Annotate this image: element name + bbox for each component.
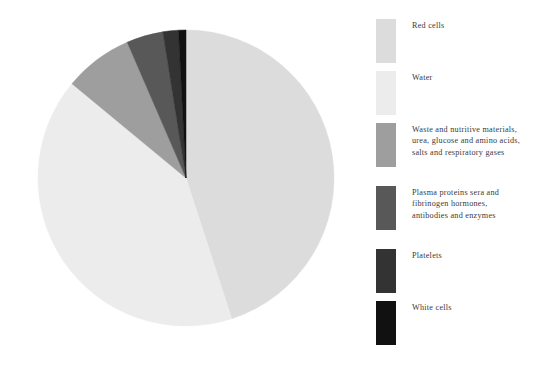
pie-chart-svg <box>0 0 376 368</box>
legend-swatch-platelets <box>376 249 396 293</box>
legend-item-white-cells[interactable]: White cells <box>376 301 539 345</box>
legend-swatch-water <box>376 71 396 115</box>
legend-swatch-plasma-proteins <box>376 186 396 230</box>
legend-label-white-cells: White cells <box>412 301 452 313</box>
chart-legend: Red cells Water Waste and nutritive mate… <box>376 0 539 368</box>
legend-item-plasma-proteins[interactable]: Plasma proteins sera and fibrinogen horm… <box>376 186 539 230</box>
legend-swatch-white-cells <box>376 301 396 345</box>
legend-swatch-red-cells <box>376 19 396 63</box>
legend-label-waste-and-nutritive-materials: Waste and nutritive materials, urea, glu… <box>412 123 520 158</box>
legend-item-waste-and-nutritive-materials[interactable]: Waste and nutritive materials, urea, glu… <box>376 123 539 167</box>
legend-label-platelets: Platelets <box>412 249 442 261</box>
legend-label-plasma-proteins: Plasma proteins sera and fibrinogen horm… <box>412 186 499 221</box>
pie-chart-page: Red cells Water Waste and nutritive mate… <box>0 0 539 368</box>
legend-swatch-waste-and-nutritive-materials <box>376 123 396 167</box>
legend-item-platelets[interactable]: Platelets <box>376 249 539 293</box>
legend-item-red-cells[interactable]: Red cells <box>376 19 539 63</box>
legend-label-red-cells: Red cells <box>412 19 445 31</box>
legend-item-water[interactable]: Water <box>376 71 539 115</box>
pie-slice-group <box>38 30 334 326</box>
pie-chart <box>0 0 376 368</box>
legend-label-water: Water <box>412 71 433 83</box>
